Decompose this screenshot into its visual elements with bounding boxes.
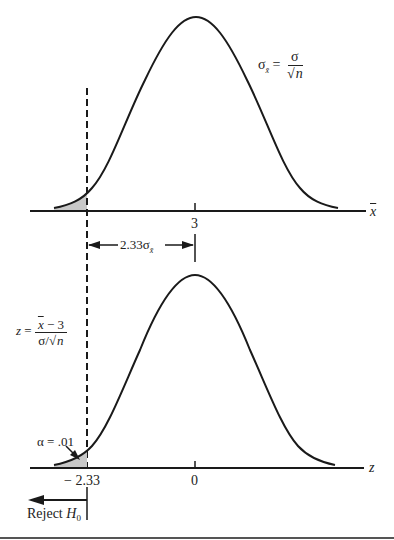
tick-label-0: 0 [191, 474, 198, 488]
equals-sign: = [273, 57, 281, 72]
reject-arrowhead-icon [28, 495, 44, 505]
distance-label-subscript: x̄ [150, 246, 154, 255]
sqrt-icon: √ [287, 66, 295, 81]
reject-h0-label: Reject H0 [27, 507, 81, 523]
top-rejection-area [54, 193, 87, 211]
top-sigma-formula: σx̄ = σ √n [258, 50, 306, 81]
n-variable: n [56, 332, 64, 348]
z-fraction-numerator: x − 3 [35, 318, 67, 333]
diagram-canvas [0, 0, 394, 540]
n-variable: n [295, 65, 303, 81]
z-fraction-denominator: σ/√n [35, 333, 66, 347]
bottom-normal-curve [54, 275, 335, 465]
sigma-fraction: σ √n [284, 50, 306, 81]
reject-text: Reject [27, 506, 66, 521]
equals-sign: = [24, 323, 31, 338]
z-formula: z = x − 3 σ/√n [16, 318, 67, 347]
xbar-subscript: x̄ [266, 66, 270, 75]
sigma-symbol: σ [258, 57, 266, 72]
h-subscript: 0 [76, 513, 81, 523]
fraction-denominator: √n [284, 66, 306, 81]
top-axis-label: x [370, 205, 376, 219]
minus-three: − 3 [44, 317, 64, 332]
z-fraction: x − 3 σ/√n [35, 318, 67, 347]
bottom-axis-label: z [369, 461, 374, 475]
z-variable: z [16, 323, 21, 338]
sigma-over: σ/ [38, 333, 49, 348]
fraction-numerator: σ [288, 50, 302, 66]
arrowhead-left-icon [88, 241, 100, 249]
top-normal-curve [54, 17, 338, 208]
tick-label-neg-2-33: − 2.33 [64, 474, 100, 488]
distance-label-text: 2.33σ [120, 237, 150, 252]
h-variable: H [66, 506, 76, 521]
distance-label: 2.33σx̄ [120, 238, 153, 255]
top-tick-label-3: 3 [191, 217, 198, 231]
arrowhead-right-icon [182, 241, 194, 249]
alpha-label: α = .01 [37, 435, 74, 448]
